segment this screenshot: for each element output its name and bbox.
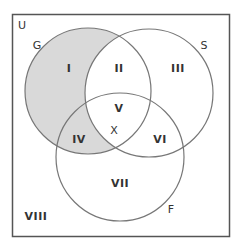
region-label-ii: II <box>114 62 123 75</box>
venn-diagram: U G S F I II III IV V VI VII VIII X <box>0 0 238 251</box>
shaded-region-g-only <box>25 28 151 154</box>
set-f-label: F <box>168 203 174 216</box>
region-label-iii: III <box>171 62 185 75</box>
region-label-vii: VII <box>111 177 129 190</box>
region-label-i: I <box>67 62 72 75</box>
universe-label: U <box>18 19 26 32</box>
marker-x: X <box>110 124 118 137</box>
region-label-v: V <box>114 102 123 115</box>
set-g-label: G <box>33 39 42 52</box>
set-s-label: S <box>201 39 208 52</box>
region-label-iv: IV <box>72 133 86 146</box>
region-label-viii: VIII <box>25 210 48 223</box>
region-label-vi: VI <box>153 133 167 146</box>
